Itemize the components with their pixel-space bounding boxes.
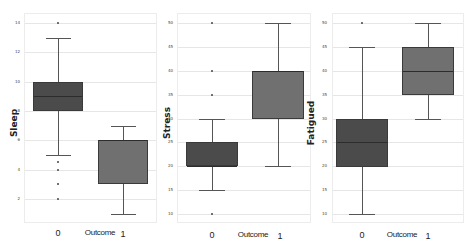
x-axis-label: Outcome [380, 230, 424, 239]
y-tick-label: 12 [8, 50, 20, 54]
gridline [333, 95, 463, 96]
median-line [34, 96, 82, 97]
whisker-cap-top [349, 47, 375, 48]
whisker-cap-top [415, 23, 441, 24]
outlier-point [57, 198, 59, 200]
x-tick-label-1: 1 [273, 231, 287, 241]
y-tick-label: 40 [161, 69, 173, 73]
gridline [25, 52, 156, 53]
gridline [178, 190, 310, 191]
y-axis-label: Fatigued [306, 93, 316, 153]
outlier-point [211, 70, 213, 72]
sleep-boxplot-panel: 1412108642Sleep01Outcome [0, 0, 160, 249]
y-tick-label: 15 [315, 188, 327, 192]
fatigued-boxplot-panel: 504540353025201510Fatigued01Outcome [307, 0, 473, 249]
y-tick-label: 10 [161, 212, 173, 216]
box-outcome-0 [186, 142, 238, 166]
y-tick-label: 15 [161, 188, 173, 192]
y-tick-label: 14 [8, 21, 20, 25]
x-tick-label-0: 0 [51, 228, 65, 238]
whisker-cap-top [199, 119, 225, 120]
y-axis-label: Stress [162, 93, 172, 153]
y-tick-label: 25 [315, 140, 327, 144]
whisker-cap-bottom [349, 214, 375, 215]
outlier-point [57, 22, 59, 24]
median-line [187, 166, 237, 167]
gridline [178, 47, 310, 48]
plot-area [332, 13, 464, 223]
x-axis-label: Outcome [231, 230, 275, 239]
outlier-point [57, 161, 59, 163]
gridline [333, 190, 463, 191]
box-outcome-1 [252, 71, 304, 119]
x-axis-label: Outcome [78, 228, 122, 237]
y-tick-label: 45 [315, 45, 327, 49]
y-tick-label: 45 [161, 45, 173, 49]
gridline [25, 111, 156, 112]
y-tick-label: 20 [161, 164, 173, 168]
median-line [99, 140, 147, 141]
y-tick-label: 40 [315, 69, 327, 73]
y-tick-label: 30 [315, 117, 327, 121]
whisker-cap-top [46, 38, 71, 39]
whisker-cap-bottom [199, 190, 225, 191]
plot-area [24, 13, 157, 223]
x-tick-label-0: 0 [205, 230, 219, 240]
gridline [25, 23, 156, 24]
whisker-cap-bottom [415, 119, 441, 120]
whisker-cap-bottom [111, 214, 136, 215]
median-line [253, 71, 303, 72]
y-tick-label: 4 [8, 168, 20, 172]
outlier-point [211, 94, 213, 96]
gridline [25, 199, 156, 200]
gridline [178, 119, 310, 120]
outlier-point [361, 22, 363, 24]
whisker-cap-bottom [46, 155, 71, 156]
y-axis-label: Sleep [9, 93, 19, 153]
y-tick-label: 35 [315, 93, 327, 97]
whisker-cap-top [111, 126, 136, 127]
y-tick-label: 10 [8, 80, 20, 84]
median-line [403, 71, 453, 72]
y-tick-label: 50 [161, 21, 173, 25]
outlier-point [211, 213, 213, 215]
stress-boxplot-panel: 504540353025201510Stress01Outcome [152, 0, 314, 249]
box-outcome-1 [98, 140, 148, 184]
x-tick-label-0: 0 [355, 230, 369, 240]
median-line [337, 142, 387, 143]
whisker-cap-bottom [265, 166, 291, 167]
y-tick-label: 50 [315, 21, 327, 25]
whisker-cap-top [265, 23, 291, 24]
y-tick-label: 10 [315, 212, 327, 216]
box-outcome-0 [336, 119, 388, 167]
y-tick-label: 2 [8, 197, 20, 201]
y-tick-label: 20 [315, 164, 327, 168]
gridline [178, 214, 310, 215]
outlier-point [211, 22, 213, 24]
outlier-point [57, 183, 59, 185]
gridline [333, 23, 463, 24]
outlier-point [57, 169, 59, 171]
